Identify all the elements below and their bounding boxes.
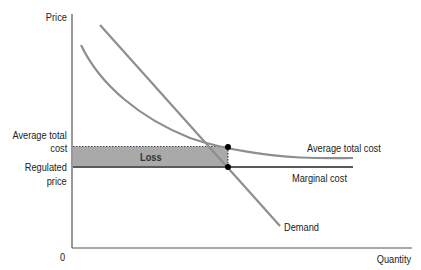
regulated-price-tick-label-line1: Regulated — [25, 161, 67, 173]
x-axis-label: Quantity — [377, 253, 411, 265]
loss-label: Loss — [140, 151, 162, 163]
atc-intersection-point — [225, 144, 231, 150]
atc-tick-label-line2: cost — [50, 142, 67, 154]
mc-intersection-point — [225, 164, 231, 170]
demand-curve — [100, 25, 280, 226]
atc-curve-label: Average total cost — [307, 142, 381, 154]
regulated-price-tick-label-line2: price — [47, 175, 67, 187]
origin-label: 0 — [60, 251, 65, 263]
mc-curve-label: Marginal cost — [292, 172, 347, 184]
demand-curve-label: Demand — [284, 221, 319, 233]
atc-tick-label-line1: Average total — [13, 129, 67, 141]
y-axis-label: Price — [46, 11, 67, 23]
